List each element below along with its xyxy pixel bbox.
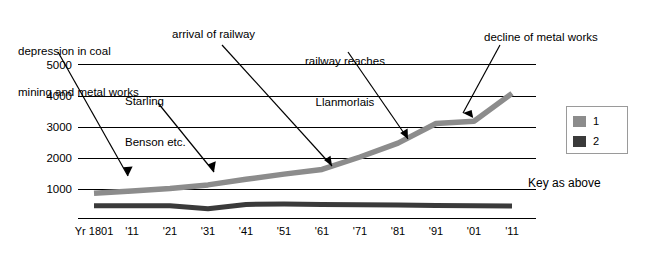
- annotation-starling-line2: Benson etc.: [125, 136, 186, 150]
- x-axis-label-61: '61: [315, 225, 329, 237]
- legend-item-1: 1: [573, 115, 599, 127]
- x-axis-label-31: '31: [201, 225, 215, 237]
- chart-figure: 5000 4000 3000 2000 1000 Yr 1801 '11 '21…: [0, 0, 650, 259]
- legend-box: 1 2: [566, 106, 628, 154]
- legend-swatch-1: [573, 116, 586, 127]
- legend-label-1: 1: [593, 115, 599, 127]
- annotation-depression-line1: depression in coal: [18, 45, 139, 59]
- annotation-decline-metal-works: decline of metal works: [484, 31, 598, 45]
- x-axis-label-21: '21: [163, 225, 177, 237]
- annotation-depression-line2: mining and metal works: [18, 86, 139, 100]
- x-axis-label-1801: Yr 1801: [75, 225, 114, 237]
- x-axis-label-51: '51: [277, 225, 291, 237]
- annotation-railway-line2: Llanmorlais: [305, 96, 385, 110]
- annotation-starling-benson: Starling Benson etc.: [125, 68, 186, 176]
- x-axis-label-41: '41: [239, 225, 253, 237]
- x-axis-label-81: '81: [391, 225, 405, 237]
- annotation-starling-line1: Starling: [125, 95, 186, 109]
- legend-swatch-2: [573, 136, 586, 147]
- x-axis-label-91: '91: [429, 225, 443, 237]
- y-axis-label-1000: 1000: [46, 183, 78, 195]
- x-axis-label-01: '01: [467, 225, 481, 237]
- key-as-above-note: Key as above: [528, 176, 601, 190]
- x-axis-label-71: '71: [353, 225, 367, 237]
- annotation-depression: depression in coal mining and metal work…: [18, 18, 139, 126]
- y-axis-label-2000: 2000: [46, 152, 78, 164]
- x-axis-label-11a: '11: [125, 225, 139, 237]
- legend-label-2: 2: [593, 135, 599, 147]
- gridline-1000: [78, 189, 536, 190]
- annotation-arrival-of-railway: arrival of railway: [172, 28, 255, 42]
- x-axis-label-11b: '11: [505, 225, 519, 237]
- annotation-railway-reaches: railway reaches Llanmorlais: [305, 28, 385, 136]
- legend-item-2: 2: [573, 135, 599, 147]
- annotation-railway-line1: railway reaches: [305, 55, 385, 69]
